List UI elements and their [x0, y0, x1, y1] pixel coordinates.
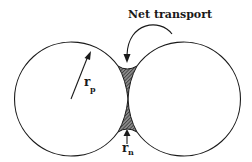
particle-radius-subscript: p	[90, 84, 96, 94]
right-particle-circle	[137, 42, 240, 156]
sintering-neck-diagram: Net transport r p r n	[0, 0, 252, 162]
net-transport-arrowhead-icon	[124, 54, 131, 63]
left-particle-circle	[15, 42, 118, 156]
net-transport-arrow	[127, 25, 172, 55]
net-transport-label: Net transport	[128, 8, 213, 21]
neck-region-lower	[118, 99, 137, 132]
neck-radius-subscript: n	[128, 147, 134, 157]
neck-radius-arrowhead-icon	[124, 129, 131, 136]
particle-radius-arrowhead-icon	[85, 51, 92, 60]
neck-region-upper	[118, 66, 137, 99]
